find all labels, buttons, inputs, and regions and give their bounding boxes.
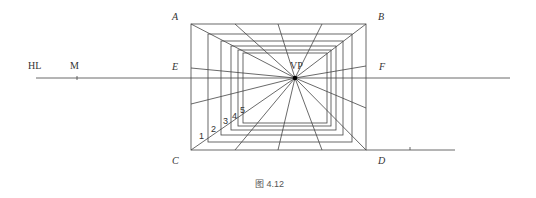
vanishing-point (293, 76, 298, 81)
corner-label-b: B (378, 12, 384, 22)
vp-label: VP (290, 61, 303, 71)
horizon-label: HL (28, 61, 41, 71)
corner-label-d: D (378, 156, 385, 166)
figure-caption: 图 4.12 (255, 180, 284, 189)
depth-number-5: 5 (240, 106, 245, 115)
perspective-drawing (0, 0, 536, 198)
measuring-point-label: M (70, 61, 79, 71)
point-label-f: F (379, 62, 385, 72)
corner-label-c: C (172, 156, 179, 166)
outer-frame (191, 24, 366, 150)
depth-number-2: 2 (211, 125, 216, 134)
depth-number-4: 4 (232, 112, 237, 121)
corner-label-a: A (172, 12, 178, 22)
point-label-e: E (172, 62, 178, 72)
vp-rays (191, 24, 366, 150)
perspective-diagram: HL M VP A B E F C D 1 2 3 4 5 图 4.12 (0, 0, 536, 198)
depth-number-3: 3 (223, 117, 228, 126)
depth-number-1: 1 (199, 132, 204, 141)
